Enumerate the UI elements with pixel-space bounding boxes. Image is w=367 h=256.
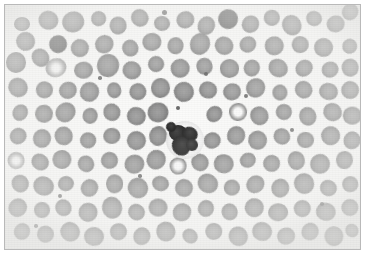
platelet	[204, 72, 208, 76]
platelet	[98, 76, 102, 80]
platelet	[58, 194, 62, 198]
platelet	[290, 128, 294, 132]
platelet	[244, 94, 248, 98]
platelet	[34, 224, 38, 228]
blood-smear-image	[5, 5, 360, 249]
platelet	[320, 202, 324, 206]
platelet	[176, 106, 180, 110]
platelet	[162, 10, 167, 15]
image-frame-border	[4, 4, 361, 250]
platelet-layer	[5, 5, 360, 249]
micrograph-figure	[0, 0, 367, 256]
platelet	[138, 174, 142, 178]
